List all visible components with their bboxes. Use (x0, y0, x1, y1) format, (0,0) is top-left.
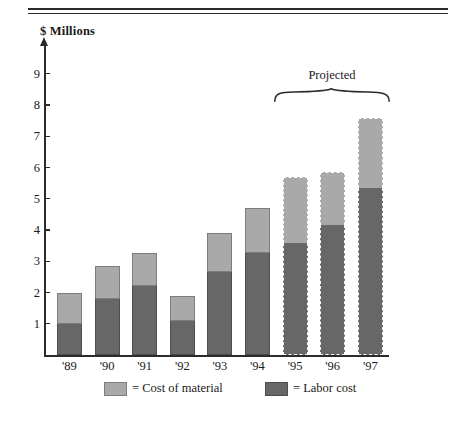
legend-item-cost-of-material: = Cost of material (104, 381, 223, 396)
y-tick-mark (45, 323, 50, 324)
y-tick-label: 1 (24, 318, 40, 331)
x-tick-label: '94 (239, 360, 277, 373)
bar-segment-material (245, 208, 270, 253)
bar-segment-labor (320, 225, 345, 355)
y-axis-line (44, 45, 46, 356)
x-tick-label: '92 (163, 360, 201, 373)
bar-segment-labor (132, 286, 157, 355)
y-tick-label: 6 (24, 162, 40, 175)
bar-97 (358, 118, 383, 356)
bar-segment-labor (245, 253, 270, 355)
labor-swatch-icon (265, 382, 288, 396)
legend-label-labor-cost: = Labor cost (293, 381, 356, 396)
bar-90 (95, 266, 120, 355)
bar-segment-material (95, 266, 120, 299)
y-tick-label: 2 (24, 287, 40, 300)
y-tick-label: 3 (24, 255, 40, 268)
y-tick-mark (45, 167, 50, 168)
bar-93 (207, 233, 232, 355)
bar-96 (320, 172, 345, 355)
x-tick-label: '91 (126, 360, 164, 373)
y-tick-mark (45, 198, 50, 199)
bar-segment-material (358, 118, 383, 188)
bar-94 (245, 208, 270, 355)
y-tick-label: 4 (24, 224, 40, 237)
bar-segment-labor (95, 299, 120, 355)
legend-item-labor-cost: = Labor cost (265, 381, 356, 396)
y-tick-mark (45, 229, 50, 230)
bar-segment-labor (358, 188, 383, 355)
x-tick-label: '97 (351, 360, 389, 373)
x-axis-line (44, 355, 389, 357)
bar-segment-material (207, 233, 232, 272)
bar-segment-material (320, 172, 345, 225)
x-tick-label: '89 (51, 360, 89, 373)
y-tick-label: 8 (24, 99, 40, 112)
y-tick-label: 9 (24, 68, 40, 81)
y-tick-label: 7 (24, 130, 40, 143)
x-tick-label: '90 (88, 360, 126, 373)
bar-95 (283, 177, 308, 355)
bar-segment-labor (57, 324, 82, 355)
bar-segment-material (283, 177, 308, 243)
projected-label: Projected (274, 68, 390, 83)
bar-89 (57, 293, 82, 356)
bar-segment-labor (283, 243, 308, 356)
bar-segment-material (132, 253, 157, 286)
y-tick-mark (45, 261, 50, 262)
y-tick-mark (45, 104, 50, 105)
y-tick-mark (45, 292, 50, 293)
y-tick-label: 5 (24, 193, 40, 206)
plot-area: 123456789 '89'90'91'92'93'94'95'96'97 Pr… (0, 0, 454, 424)
projected-brace-icon (274, 88, 390, 102)
chart-figure: $ Millions 123456789 '89'90'91'92'93'94'… (0, 0, 454, 424)
legend-label-cost-of-material: = Cost of material (132, 381, 223, 396)
bar-segment-labor (207, 272, 232, 355)
bar-segment-labor (170, 321, 195, 355)
bar-segment-material (170, 296, 195, 321)
x-tick-label: '93 (201, 360, 239, 373)
x-tick-label: '95 (276, 360, 314, 373)
y-tick-mark (45, 136, 50, 137)
bar-segment-material (57, 293, 82, 324)
chart-legend: = Cost of material = Labor cost (104, 381, 404, 397)
bar-91 (132, 253, 157, 355)
x-tick-label: '96 (314, 360, 352, 373)
y-tick-mark (45, 73, 50, 74)
bar-92 (170, 296, 195, 355)
material-swatch-icon (104, 382, 127, 396)
